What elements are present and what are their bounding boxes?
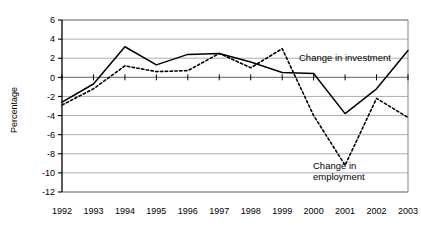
y-axis-tick-label: -8 [47,149,55,159]
y-axis-tick-label: -6 [47,130,55,140]
chart-background [0,0,421,234]
x-axis-tick-label: 1992 [52,206,72,216]
y-axis-title-label: Percentage [9,87,19,133]
y-axis-tick-label: 0 [50,73,55,83]
annotation-employment-label-line1: Change in [313,160,356,171]
x-axis-tick-label: 1998 [241,206,261,216]
x-axis-tick-label: 1999 [272,206,292,216]
x-axis-tick-label: 1994 [115,206,135,216]
y-axis-tick-label: 4 [50,34,55,44]
y-axis-tick-label: -10 [42,168,55,178]
line-chart: 6420-2-4-6-8-10-12 199219931994199519961… [0,0,421,234]
x-axis-tick-label: 1993 [83,206,103,216]
x-axis-tick-label: 2000 [304,206,324,216]
y-axis-tick-label: 6 [50,15,55,25]
y-axis-tick-label: 2 [50,53,55,63]
annotation-change-in-investment: Change in investment [299,52,391,63]
annotation-employment-label-line2: employment [313,171,365,182]
y-axis-title: Percentage [9,87,19,133]
x-axis-tick-label: 2002 [367,206,387,216]
y-axis-tick-label: -12 [42,187,55,197]
y-axis-tick-label: -4 [47,111,55,121]
x-axis-tick-label: 2001 [335,206,355,216]
x-axis-tick-label: 2003 [398,206,418,216]
annotation-investment-label: Change in investment [299,52,391,63]
x-axis-tick-label: 1997 [209,206,229,216]
chart-container: 6420-2-4-6-8-10-12 199219931994199519961… [0,0,421,234]
x-axis-tick-label: 1996 [178,206,198,216]
x-axis-tick-label: 1995 [146,206,166,216]
y-axis-tick-label: -2 [47,92,55,102]
